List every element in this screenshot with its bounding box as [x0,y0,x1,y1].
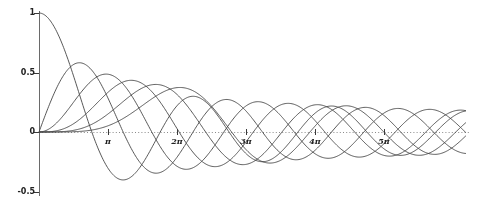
bessel-curves-canvas [0,0,479,208]
xtick-label-5pi: 5π [373,136,395,146]
xtick-label-pi: π [97,136,119,146]
ytick-label-0p5: 0.5 [9,68,35,78]
ytick-label-1: 1 [9,8,35,18]
xtick-label-4pi: 4π [304,136,326,146]
xtick-label-3pi: 3π [235,136,257,146]
bessel-functions-figure: 1 0.5 0 -0.5 π 2π 3π 4π 5π [0,0,479,208]
ytick-label-0: 0 [9,127,35,137]
ytick-label-neg0p5: -0.5 [9,187,35,197]
xtick-label-2pi: 2π [166,136,188,146]
